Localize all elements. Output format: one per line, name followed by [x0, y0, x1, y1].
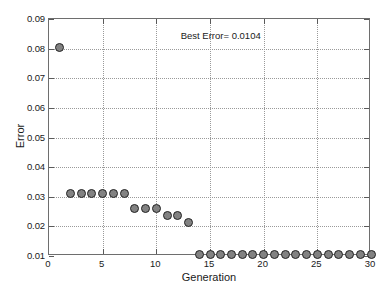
data-point-marker	[238, 250, 247, 259]
y-axis-tick-label: 0.03	[27, 190, 45, 201]
y-axis-tick	[364, 226, 369, 227]
data-point-marker	[345, 250, 354, 259]
gridline-vertical	[103, 19, 104, 254]
data-point-marker	[173, 211, 182, 220]
x-axis-tick-label: 5	[99, 258, 104, 269]
data-point-marker	[216, 250, 225, 259]
data-point-marker	[98, 189, 107, 198]
y-axis-tick-label: 0.04	[27, 161, 45, 172]
error-vs-generation-chart: Best Error= 0.0104 0.010.020.030.040.050…	[0, 0, 390, 289]
y-axis-tick	[49, 226, 54, 227]
y-axis-tick-label: 0.08	[27, 42, 45, 53]
x-axis-title: Generation	[48, 271, 370, 283]
data-point-marker	[66, 189, 75, 198]
y-axis-tick	[49, 108, 54, 109]
data-point-marker	[55, 43, 64, 52]
x-axis-tick-label: 30	[365, 258, 376, 269]
data-point-marker	[152, 204, 161, 213]
gridline-horizontal	[49, 197, 369, 198]
y-axis-tick	[364, 78, 369, 79]
gridline-vertical	[317, 19, 318, 254]
y-axis-tick	[49, 167, 54, 168]
data-point-marker	[120, 189, 129, 198]
y-axis-tick	[364, 167, 369, 168]
data-point-marker	[302, 250, 311, 259]
data-point-marker	[334, 250, 343, 259]
gridline-horizontal	[49, 49, 369, 50]
x-axis-tick	[264, 19, 265, 24]
gridline-horizontal	[49, 138, 369, 139]
best-error-annotation: Best Error= 0.0104	[181, 30, 261, 41]
data-point-marker	[163, 211, 172, 220]
gridline-vertical	[156, 19, 157, 254]
data-point-marker	[227, 250, 236, 259]
gridline-horizontal	[49, 78, 369, 79]
x-axis-tick	[210, 19, 211, 24]
data-point-marker	[356, 250, 365, 259]
data-point-marker	[109, 189, 118, 198]
y-axis-tick-label: 0.02	[27, 220, 45, 231]
data-point-marker	[291, 250, 300, 259]
y-axis-tick	[49, 78, 54, 79]
y-axis-tick-label: 0.09	[27, 13, 45, 24]
gridline-horizontal	[49, 167, 369, 168]
x-axis-tick	[317, 19, 318, 24]
data-point-marker	[248, 250, 257, 259]
y-axis-tick	[49, 19, 54, 20]
x-axis-tick-label: 20	[257, 258, 268, 269]
y-axis-tick-label: 0.01	[27, 250, 45, 261]
y-axis-tick	[49, 138, 54, 139]
x-axis-tick-label: 0	[45, 258, 50, 269]
y-axis-tick	[364, 108, 369, 109]
y-axis-title: Error	[14, 124, 26, 148]
data-point-marker	[77, 189, 86, 198]
x-axis-tick-label: 10	[150, 258, 161, 269]
gridline-horizontal	[49, 108, 369, 109]
data-point-marker	[270, 250, 279, 259]
data-point-marker	[141, 204, 150, 213]
data-point-marker	[281, 250, 290, 259]
y-axis-tick	[49, 49, 54, 50]
x-axis-tick	[103, 19, 104, 24]
data-point-marker	[130, 204, 139, 213]
x-axis-tick	[156, 19, 157, 24]
data-point-marker	[195, 250, 204, 259]
x-axis-tick	[156, 249, 157, 254]
y-axis-tick-label: 0.07	[27, 72, 45, 83]
plot-area: Best Error= 0.0104	[48, 18, 370, 255]
y-axis-tick	[364, 19, 369, 20]
gridline-horizontal	[49, 226, 369, 227]
y-axis-tick-label: 0.05	[27, 131, 45, 142]
y-axis-tick	[364, 49, 369, 50]
gridline-vertical	[264, 19, 265, 254]
x-axis-tick-label: 25	[311, 258, 322, 269]
y-axis-tick	[49, 256, 54, 257]
y-axis-tick	[49, 197, 54, 198]
gridline-vertical	[210, 19, 211, 254]
y-axis-tick	[364, 197, 369, 198]
y-axis-tick	[364, 138, 369, 139]
data-point-marker	[324, 250, 333, 259]
x-axis-tick-label: 15	[204, 258, 215, 269]
y-axis-tick-label: 0.06	[27, 101, 45, 112]
x-axis-tick	[103, 249, 104, 254]
